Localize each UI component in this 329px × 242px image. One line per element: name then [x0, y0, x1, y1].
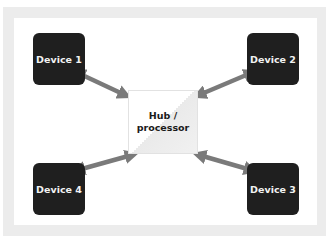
device-1-node: Device 1: [33, 33, 85, 85]
arrow-device3-hub: [199, 155, 251, 170]
hub-label-line2: processor: [137, 122, 190, 134]
device-2-label: Device 2: [250, 54, 296, 65]
device-2-node: Device 2: [247, 33, 299, 85]
device-3-node: Device 3: [247, 163, 299, 215]
hub-processor-node: Hub / processor: [128, 90, 198, 154]
arrow-device2-hub: [199, 73, 251, 95]
device-3-label: Device 3: [250, 184, 296, 195]
device-1-label: Device 1: [36, 54, 82, 65]
arrow-device1-hub: [78, 73, 125, 95]
device-4-label: Device 4: [36, 184, 82, 195]
hub-label-line1: Hub /: [137, 110, 190, 122]
device-4-node: Device 4: [33, 163, 85, 215]
arrow-device4-hub: [78, 155, 132, 170]
